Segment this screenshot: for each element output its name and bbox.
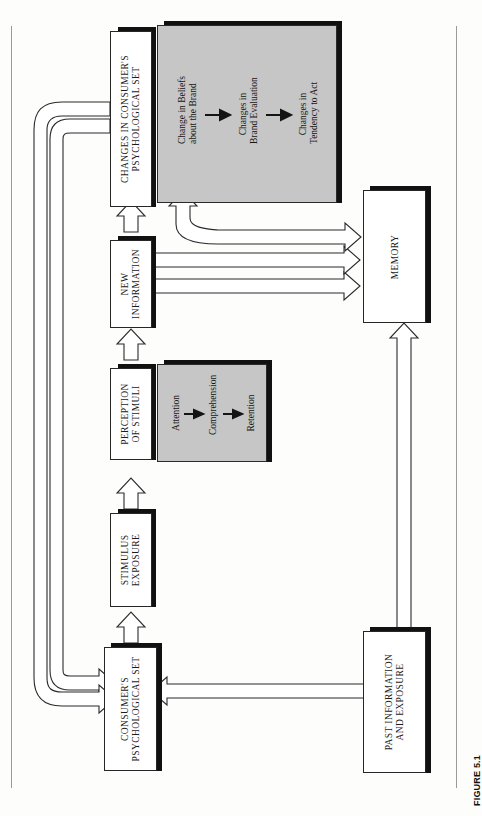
consumer-set-shadow-side: [157, 643, 162, 771]
perception-detail-panel: Attention Comprehension Retention: [157, 364, 267, 462]
node-label: NEW INFORMATION: [120, 249, 141, 319]
node-label: PERCEPTION OF STIMULI: [120, 383, 141, 445]
page-rule-left: [11, 26, 12, 788]
node-changes-in-consumers-psychological-set[interactable]: CHANGES IN CONSUMER'S PSYCHOLOGICAL SET: [110, 31, 152, 207]
node-perception-of-stimuli[interactable]: PERCEPTION OF STIMULI: [110, 368, 152, 460]
arrow-changes-set-to-consumer-set-feedback-inner: [50, 119, 115, 697]
memory-shadow-side: [426, 186, 431, 323]
changes-panel-arrows: [158, 26, 338, 204]
arrow-consumer-set-to-stimulus-exposure: [117, 612, 145, 643]
node-stimulus-exposure[interactable]: STIMULUS EXPOSURE: [110, 513, 152, 607]
arrow-past-information-to-consumer-set: [151, 677, 366, 705]
node-memory[interactable]: MEMORY: [363, 190, 426, 323]
arrow-stimulus-exposure-to-perception: [117, 478, 145, 509]
arrow-changes-set-to-memory: [152, 246, 360, 274]
figure-page: CHANGES IN CONSUMER'S PSYCHOLOGICAL SET …: [0, 0, 482, 816]
node-label: STIMULUS EXPOSURE: [120, 534, 141, 586]
node-label: MEMORY: [389, 234, 400, 279]
node-label: CHANGES IN CONSUMER'S PSYCHOLOGICAL SET: [120, 55, 141, 183]
node-label: PAST INFORMATION AND EXPOSURE: [384, 654, 405, 750]
arrow-new-information-to-memory: [152, 272, 360, 300]
changes-detail-panel: Change in Beliefs about the Brand Change…: [157, 25, 337, 203]
node-consumers-psychological-set[interactable]: CONSUMER'S PSYCHOLOGICAL SET: [104, 647, 157, 771]
perception-panel-arrows: [158, 365, 268, 463]
node-new-information[interactable]: NEW INFORMATION: [110, 240, 152, 328]
node-label: CONSUMER'S PSYCHOLOGICAL SET: [120, 657, 141, 762]
node-past-information-and-exposure[interactable]: PAST INFORMATION AND EXPOSURE: [363, 631, 426, 773]
page-rule-right: [456, 26, 457, 788]
figure-caption: FIGURE 5.1: [472, 755, 482, 806]
arrow-perception-to-new-information: [117, 329, 145, 360]
arrow-past-information-to-memory: [390, 323, 418, 640]
past-information-shadow-side: [426, 627, 431, 773]
arrow-changes-set-to-consumer-set-feedback-outer: [34, 102, 115, 713]
